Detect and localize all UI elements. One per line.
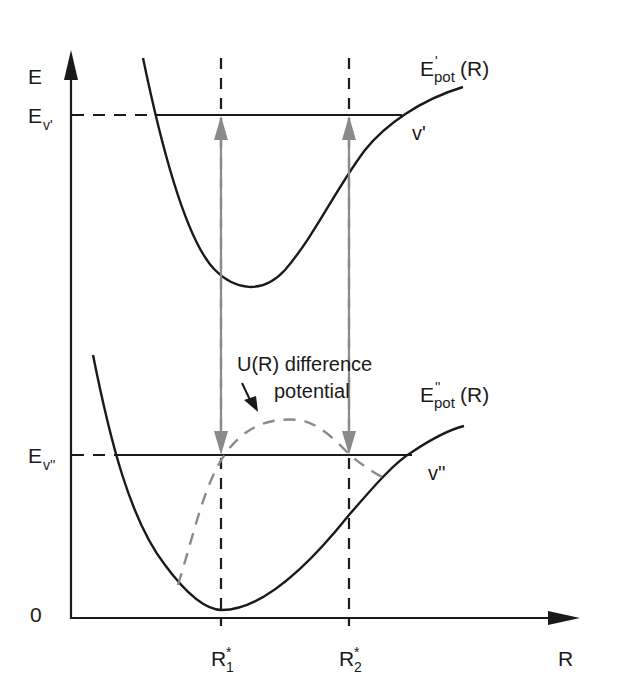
x-axis-label: R — [558, 647, 573, 670]
svg-text:E: E — [420, 57, 434, 80]
r1-marker-label: R 1 * — [211, 644, 234, 675]
svg-text:v'': v'' — [43, 457, 55, 473]
svg-text:E: E — [420, 383, 434, 406]
svg-text:v': v' — [43, 117, 53, 133]
svg-text:2: 2 — [354, 659, 362, 675]
upper-level-label: v' — [412, 122, 426, 144]
difference-pointer-arrow — [242, 383, 258, 412]
y-axis-arrow-icon — [64, 50, 78, 80]
svg-text:R: R — [211, 647, 226, 670]
upper-potential-curve — [143, 58, 463, 287]
difference-curve-label: U(R) difference potential — [237, 353, 372, 402]
svg-text:potential: potential — [274, 380, 350, 402]
upper-curve-label: E ' pot (R) — [420, 53, 489, 85]
svg-text:'': '' — [435, 379, 440, 395]
svg-text:*: * — [354, 644, 360, 660]
svg-text:E: E — [28, 104, 42, 127]
svg-text:pot: pot — [434, 394, 456, 411]
upper-level-axis-label: E v' — [28, 104, 53, 133]
lower-level-axis-label: E v'' — [28, 444, 55, 473]
difference-potential-curve — [178, 420, 388, 585]
svg-text:(R): (R) — [460, 383, 489, 406]
x-axis — [70, 611, 580, 625]
transition-arrow-r1 — [214, 116, 228, 455]
svg-text:*: * — [226, 644, 232, 660]
potential-diagram: E E v' E v'' 0 v' v'' E ' pot (R) E '' p… — [0, 0, 622, 687]
svg-text:R: R — [339, 647, 354, 670]
lower-curve-label: E '' pot (R) — [420, 379, 489, 411]
x-axis-arrow-icon — [548, 611, 580, 625]
svg-text:pot: pot — [434, 68, 456, 85]
r2-marker-label: R 2 * — [339, 644, 362, 675]
svg-text:': ' — [435, 53, 438, 69]
svg-text:E: E — [28, 444, 42, 467]
y-axis — [64, 50, 78, 619]
lower-level-label: v'' — [428, 462, 446, 484]
svg-text:U(R) difference: U(R) difference — [237, 353, 372, 375]
origin-label: 0 — [30, 603, 42, 626]
svg-text:1: 1 — [226, 659, 234, 675]
y-axis-label: E — [28, 65, 42, 88]
svg-text:(R): (R) — [460, 57, 489, 80]
